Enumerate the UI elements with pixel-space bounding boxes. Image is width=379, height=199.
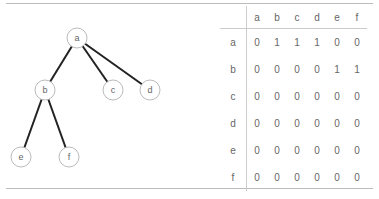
svg-text:a: a [74,33,79,43]
column-header: c [287,6,307,29]
matrix-cell: 0 [307,137,327,164]
svg-text:c: c [111,85,116,95]
matrix-cell: 0 [267,137,287,164]
row-label: b [220,56,247,83]
matrix-cell: 0 [287,56,307,83]
matrix-row: c 0 0 0 0 0 0 [220,83,367,110]
matrix-cell: 0 [247,137,268,164]
matrix-cell: 1 [327,56,347,83]
matrix-cell: 0 [247,56,268,83]
matrix-cell: 0 [267,83,287,110]
matrix-cell: 0 [247,110,268,137]
node-b: b [35,80,55,100]
matrix-corner [220,6,247,29]
matrix-cell: 1 [267,29,287,57]
matrix-cell: 0 [347,110,367,137]
node-a: a [67,28,87,48]
edge-b-f [45,90,69,157]
matrix-cell: 0 [307,110,327,137]
row-label: c [220,83,247,110]
edge-b-e [21,90,45,157]
matrix-cell: 0 [307,164,327,191]
matrix-row: d 0 0 0 0 0 0 [220,110,367,137]
matrix-cell: 0 [267,110,287,137]
matrix-cell: 0 [267,164,287,191]
matrix-row: a 0 1 1 1 0 0 [220,29,367,57]
row-label: f [220,164,247,191]
matrix-cell: 0 [287,110,307,137]
matrix-cell: 0 [327,29,347,57]
svg-text:b: b [42,85,47,95]
tree-diagram: a b c d e f [0,0,220,199]
svg-text:d: d [147,85,152,95]
node-e: e [11,147,31,167]
matrix-cell: 0 [287,164,307,191]
matrix-row: b 0 0 0 0 1 1 [220,56,367,83]
row-label: e [220,137,247,164]
node-d: d [140,80,160,100]
matrix-cell: 1 [307,29,327,57]
matrix-cell: 0 [267,56,287,83]
matrix-cell: 0 [247,29,268,57]
adjacency-matrix: a b c d e f a 0 1 1 1 0 0 b 0 0 0 0 1 1 … [220,6,367,191]
matrix-cell: 0 [247,164,268,191]
matrix-cell: 0 [347,164,367,191]
node-f: f [59,147,79,167]
matrix-cell: 0 [307,56,327,83]
node-c: c [103,80,123,100]
matrix-cell: 0 [347,29,367,57]
matrix-cell: 0 [347,83,367,110]
column-header: e [327,6,347,29]
matrix-cell: 0 [347,137,367,164]
column-header: a [247,6,268,29]
matrix-cell: 0 [327,164,347,191]
matrix-cell: 0 [287,137,307,164]
matrix-row: f 0 0 0 0 0 0 [220,164,367,191]
column-header: d [307,6,327,29]
matrix-cell: 0 [287,83,307,110]
matrix-header-row: a b c d e f [220,6,367,29]
matrix-cell: 0 [307,83,327,110]
matrix-row: e 0 0 0 0 0 0 [220,137,367,164]
column-header: b [267,6,287,29]
matrix-cell: 0 [327,110,347,137]
matrix-cell: 0 [247,83,268,110]
column-header: f [347,6,367,29]
row-label: a [220,29,247,57]
svg-text:e: e [18,152,23,162]
matrix-cell: 0 [327,83,347,110]
row-label: d [220,110,247,137]
matrix-cell: 1 [347,56,367,83]
matrix-cell: 0 [327,137,347,164]
matrix-cell: 1 [287,29,307,57]
